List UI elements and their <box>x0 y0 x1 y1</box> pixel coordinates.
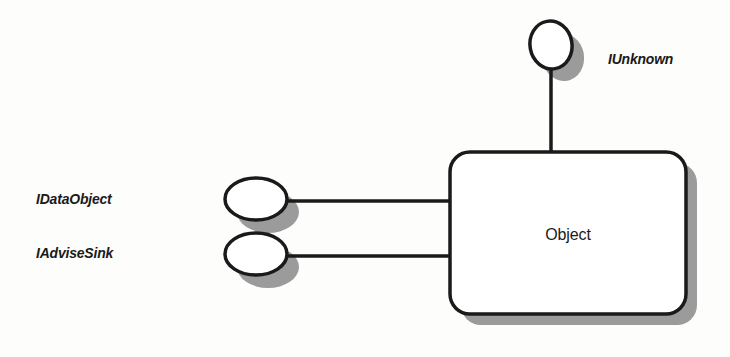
iadvisesink-lollipop[interactable] <box>225 233 287 275</box>
com-interface-diagram: IUnknown IDataObject IAdviseSink Object <box>0 0 730 357</box>
iunknown-interface-label: IUnknown <box>608 50 673 68</box>
idataobject-lollipop[interactable] <box>225 178 287 220</box>
object-box-title: Object <box>450 226 686 244</box>
iadvisesink-interface-label: IAdviseSink <box>36 244 113 262</box>
idataobject-interface-label: IDataObject <box>36 190 112 208</box>
